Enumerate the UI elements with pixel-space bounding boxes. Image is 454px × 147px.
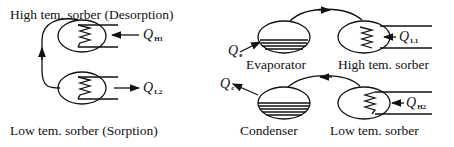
left-high-sorber-vessel <box>58 20 118 52</box>
heat-qc: Qc <box>220 77 234 92</box>
heat-qh2: QH2 <box>406 96 426 111</box>
left-low-sorber-vessel <box>58 72 118 104</box>
label-condenser: Condenser <box>240 124 298 138</box>
condenser-vessel <box>258 87 310 119</box>
heat-qh1: QH1 <box>143 28 163 43</box>
label-low-tem-sorber: Low tem. sorber <box>330 124 419 138</box>
label-evaporator: Evaporator <box>246 58 306 72</box>
heat-ql1: QL1 <box>399 30 418 45</box>
label-low-sorber-sorption: Low tem. sorber (Sorption) <box>10 124 158 138</box>
label-high-tem-sorber: High tem. sorber <box>338 58 429 72</box>
label-high-sorber-desorption: High tem. sorber (Desorption) <box>10 8 173 22</box>
heat-qe: Qe <box>228 44 242 59</box>
evaporator-vessel <box>258 21 310 53</box>
arrow-qc-out <box>233 84 258 95</box>
vapor-pipe-top <box>290 9 362 21</box>
heat-ql2: QL2 <box>143 81 162 96</box>
arrow-qe-in <box>240 42 260 52</box>
sorption-cycle-diagram: High tem. sorber (Desorption) Low tem. s… <box>0 0 454 147</box>
